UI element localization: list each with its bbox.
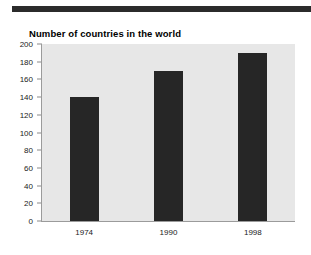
y-axis-tick-label: 40 — [24, 181, 33, 190]
x-axis-tick-label: 1974 — [75, 228, 93, 237]
y-axis-tick-label: 120 — [20, 110, 33, 119]
y-axis-tick-label: 160 — [20, 75, 33, 84]
y-axis: 020406080100120140160180200 — [0, 44, 42, 221]
y-axis-tick-label: 100 — [20, 128, 33, 137]
bar-1990 — [154, 71, 183, 221]
x-axis-tick-label: 1998 — [244, 228, 262, 237]
y-axis-tick-label: 180 — [20, 57, 33, 66]
y-axis-tick-label: 80 — [24, 146, 33, 155]
y-axis-tick-label: 20 — [24, 199, 33, 208]
bar-chart-figure: 020406080100120140160180200 197419901998 — [0, 0, 311, 255]
y-axis-tick-label: 60 — [24, 163, 33, 172]
plot-area — [42, 44, 295, 221]
y-axis-tick-label: 0 — [29, 217, 33, 226]
y-axis-tick-label: 200 — [20, 40, 33, 49]
x-axis-line — [41, 221, 295, 222]
y-axis-tick-label: 140 — [20, 93, 33, 102]
bar-1974 — [70, 97, 99, 221]
bar-1998 — [238, 53, 267, 221]
x-axis-tick-label: 1990 — [160, 228, 178, 237]
